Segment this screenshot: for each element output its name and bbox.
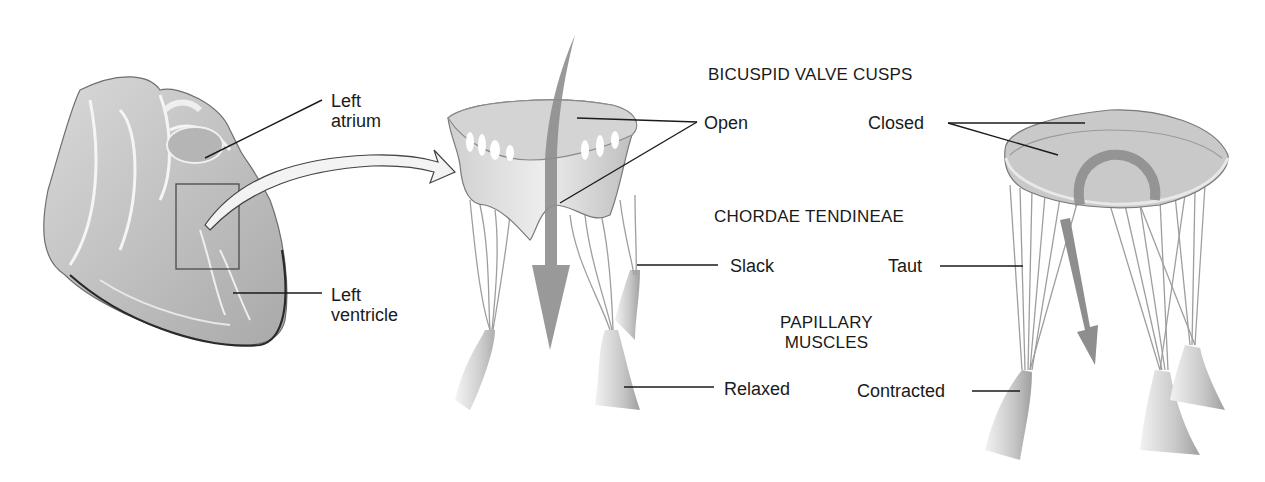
label-left-ventricle-line2: ventricle (331, 305, 398, 325)
heading-bicuspid-valve-cusps: BICUSPID VALVE CUSPS (708, 65, 913, 85)
open-valve-illustration (448, 35, 718, 410)
label-left-atrium: Left atrium (331, 91, 381, 131)
label-left-ventricle: Left ventricle (331, 285, 398, 325)
label-left-atrium-line1: Left (331, 91, 381, 111)
label-open: Open (704, 113, 748, 133)
heading-papillary-line2: MUSCLES (780, 333, 873, 353)
label-closed: Closed (868, 113, 924, 133)
label-left-ventricle-line1: Left (331, 285, 398, 305)
label-taut: Taut (888, 256, 922, 276)
label-contracted: Contracted (857, 381, 945, 401)
heart-illustration (44, 77, 322, 346)
heading-papillary-line1: PAPILLARY (780, 313, 873, 333)
label-left-atrium-line2: atrium (331, 111, 381, 131)
label-slack: Slack (730, 256, 774, 276)
label-relaxed: Relaxed (724, 379, 790, 399)
closed-valve-illustration (940, 110, 1228, 460)
heading-papillary-muscles: PAPILLARY MUSCLES (780, 313, 873, 353)
heading-chordae-tendineae: CHORDAE TENDINEAE (714, 207, 904, 227)
blood-flow-arrow-icon (1060, 218, 1098, 365)
